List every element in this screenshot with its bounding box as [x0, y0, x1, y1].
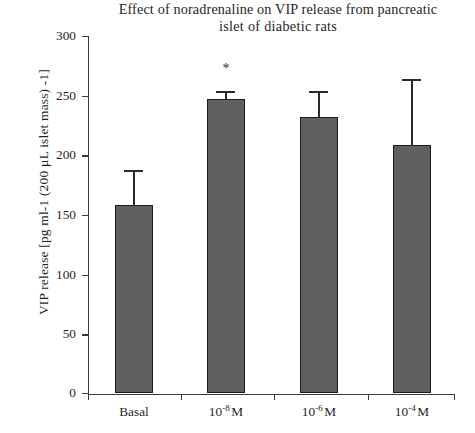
- x-label-base-3: 10: [395, 404, 408, 419]
- error-bar-cap-10-8-m: [216, 91, 235, 93]
- x-tick-label-10-8-m: 10-8M: [180, 404, 272, 420]
- x-tick-label-10-6-m: 10-6M: [273, 404, 365, 420]
- x-label-base-0: Basal: [119, 404, 149, 419]
- y-tick-50: [82, 334, 88, 335]
- chart-figure: Effect of noradrenaline on VIP release f…: [0, 0, 475, 433]
- y-axis-label: VIP release [pg ml-1 (200 µL islet mass)…: [36, 27, 52, 357]
- error-bar-stem-basal: [133, 171, 135, 206]
- bar-basal[interactable]: [115, 205, 153, 394]
- y-tick-label-100: 100: [30, 267, 76, 283]
- chart-title: Effect of noradrenaline on VIP release f…: [92, 1, 464, 34]
- y-tick-label-200: 200: [30, 147, 76, 163]
- significance-asterisk-10-8-m: *: [216, 64, 236, 74]
- bar-10-4-m[interactable]: [393, 145, 431, 393]
- y-tick-300: [82, 36, 88, 37]
- y-tick-label-250: 250: [30, 88, 76, 104]
- x-label-base-2: 10: [302, 404, 315, 419]
- error-bar-stem-10-4-m: [411, 80, 413, 146]
- x-tick-0: [88, 394, 89, 400]
- y-tick-label-0: 0: [30, 385, 76, 401]
- x-label-exp-2: -6: [315, 403, 323, 413]
- x-tick-label-basal: Basal: [88, 404, 180, 420]
- y-tick-label-50: 50: [30, 326, 76, 342]
- x-tick-2: [274, 394, 275, 400]
- error-bar-cap-basal: [124, 170, 143, 172]
- x-label-exp-3: -4: [408, 403, 416, 413]
- y-axis-line: [88, 36, 89, 394]
- x-tick-3: [368, 394, 369, 400]
- chart-title-line-1: Effect of noradrenaline on VIP release f…: [92, 1, 464, 18]
- error-bar-cap-10-4-m: [402, 79, 421, 81]
- error-bar-stem-10-8-m: [225, 92, 227, 100]
- y-tick-label-300: 300: [30, 28, 76, 44]
- error-bar-stem-10-6-m: [318, 92, 320, 117]
- x-tick-1: [181, 394, 182, 400]
- x-label-base-1: 10: [209, 404, 222, 419]
- x-axis-line: [88, 394, 455, 395]
- y-tick-250: [82, 96, 88, 97]
- error-bar-cap-10-6-m: [309, 91, 328, 93]
- y-tick-200: [82, 155, 88, 156]
- x-tick-4: [454, 394, 455, 400]
- y-tick-150: [82, 215, 88, 216]
- bar-10-6-m[interactable]: [300, 117, 338, 394]
- y-tick-label-150: 150: [30, 207, 76, 223]
- y-tick-100: [82, 275, 88, 276]
- x-label-unit-1: M: [231, 404, 243, 419]
- plot-area: 300 250 200 150 100 50 0 * Basal: [88, 36, 455, 394]
- bar-10-8-m[interactable]: [207, 99, 245, 394]
- x-label-unit-3: M: [417, 404, 429, 419]
- x-label-unit-2: M: [324, 404, 336, 419]
- chart-title-line-2: islet of diabetic rats: [92, 18, 464, 35]
- x-label-exp-1: -8: [222, 403, 230, 413]
- x-tick-label-10-4-m: 10-4M: [366, 404, 458, 420]
